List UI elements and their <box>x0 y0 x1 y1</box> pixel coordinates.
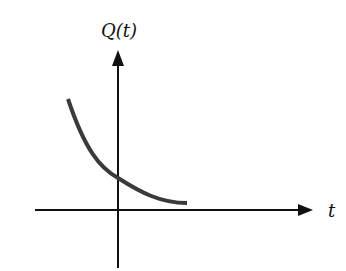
x-axis-arrow-icon <box>298 204 313 216</box>
x-axis-label: t <box>328 200 336 221</box>
decay-curve <box>68 99 187 203</box>
decay-graph: Q(t) t <box>0 0 346 271</box>
y-axis-label: Q(t) <box>101 20 137 41</box>
y-axis-arrow-icon <box>112 50 124 66</box>
